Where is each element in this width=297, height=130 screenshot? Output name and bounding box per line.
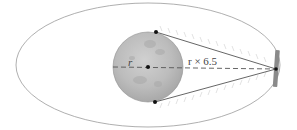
radius-label: r [128, 57, 132, 68]
moon-center-point [146, 65, 150, 69]
tangent-point-top [154, 30, 158, 34]
diagram-canvas [0, 0, 297, 130]
tangent-point-bottom [153, 100, 157, 104]
distance-label: r × 6.5 [188, 56, 217, 67]
satellite-point [274, 67, 278, 71]
